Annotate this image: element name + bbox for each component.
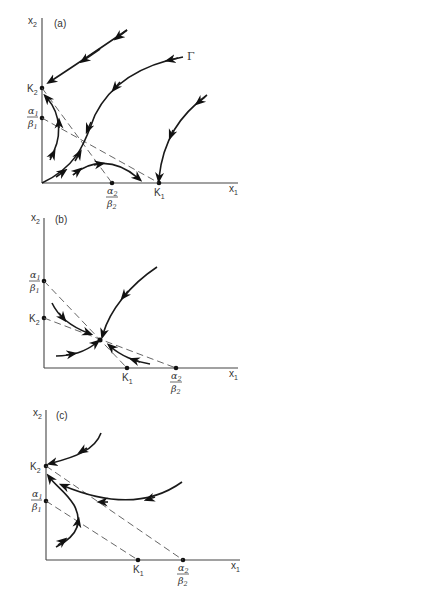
svg-text:α1: α1 [32,488,43,501]
y-axis-label: x2 [28,15,37,28]
isocline-x1 [46,501,138,560]
isocline-x1 [42,88,112,183]
svg-text:β1: β1 [31,501,42,514]
arrow-mark [73,171,78,175]
y-axis-label: x2 [33,407,42,420]
arrow-mark [134,360,140,362]
phase-portrait-figure: x2 (a) x1 K2 α1 β1 α2 β2 K1 [0,0,423,608]
svg-text:β1: β1 [29,282,40,295]
alpha2-beta2-label: α2 β2 [177,562,189,588]
isocline-x2 [46,466,183,560]
trajectory [118,30,127,37]
svg-text:β2: β2 [177,575,188,588]
panel-c: x2 (c) x1 K2 α1 β1 K1 α2 β2 [30,407,240,588]
panel-label: (c) [56,410,68,421]
gamma-label: Γ [187,50,195,63]
alpha2-beta2-label: α2 β2 [170,370,182,396]
svg-text:α1: α1 [28,105,39,118]
x-axis-label: x1 [231,560,240,573]
svg-text:α1: α1 [30,269,41,282]
panel-label: (b) [55,214,67,225]
panel-label: (a) [54,18,66,29]
arrow-mark [66,354,72,355]
trajectory [64,482,182,500]
trajectory [111,347,150,364]
alpha1-beta1-label: α1 β1 [31,488,43,514]
arrow-mark [94,164,100,165]
svg-text:β2: β2 [106,198,117,211]
trajectory [50,478,78,547]
svg-text:α2: α2 [178,562,189,575]
svg-text:α2: α2 [171,370,182,383]
y-axis-label: x2 [31,212,40,225]
svg-text:β2: β2 [170,383,181,396]
trajectory [52,433,101,463]
trajectory [84,49,100,60]
alpha1-beta1-label: α1 β1 [29,269,41,295]
trajectory [51,30,127,81]
panel-b: x2 (b) x1 α1 β1 K2 K1 α2 β2 [29,212,238,396]
k1-point [125,366,130,371]
alpha1-beta1-label: α1 β1 [27,105,39,131]
svg-text:β1: β1 [27,118,38,131]
x-axis-label: x1 [229,368,238,381]
isocline-x2 [44,318,176,368]
arrow-mark [170,58,178,60]
k2-label: K2 [29,313,40,326]
isocline-x1 [44,281,127,368]
k1-point [136,558,141,563]
alpha2-beta2-label: α2 β2 [106,185,118,211]
k1-label: K1 [154,187,165,200]
trajectory [56,343,96,356]
arrow-mark [77,522,78,527]
trajectory [159,95,207,178]
arrow-mark [199,97,205,102]
k1-label: K1 [122,372,133,385]
stable-equilibrium-point [98,338,103,343]
panel-a: x2 (a) x1 K2 α1 β1 α2 β2 K1 [27,15,238,211]
trajectory [47,98,59,158]
trajectory [103,267,157,334]
trajectory [73,163,138,178]
svg-text:α2: α2 [107,185,118,198]
x-axis-label: x1 [229,183,238,196]
k1-label: K1 [133,564,144,577]
k2-label: K2 [27,83,38,96]
trajectory [52,303,88,333]
k2-label: K2 [30,461,41,474]
